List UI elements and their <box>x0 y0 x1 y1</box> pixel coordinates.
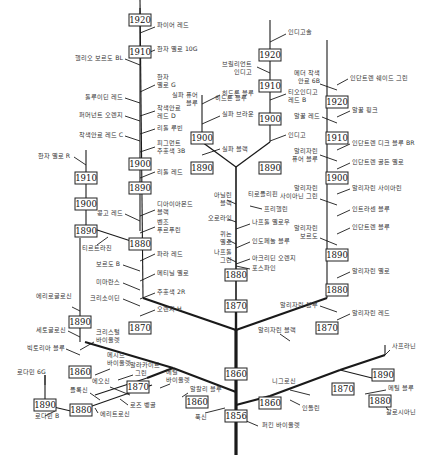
dye-label: 블루 <box>186 99 198 107</box>
dye-label: 그린 <box>135 369 147 376</box>
leader-line <box>140 27 155 33</box>
year-box: 1890 <box>372 369 394 381</box>
leader-line <box>257 67 270 73</box>
dye-label: 나프톨 <box>214 248 232 256</box>
dye-label: 알리자린 블루 <box>280 301 318 309</box>
year-label: 1860 <box>69 367 91 377</box>
dye-label: 레드 D <box>157 112 176 120</box>
leader-line <box>270 135 286 141</box>
dye-label: 인단트렌 골든 옐로 <box>352 158 404 165</box>
dye-label: 옐로 G <box>157 81 176 88</box>
year-label: 1880 <box>129 239 151 249</box>
year-label: 1870 <box>127 382 149 392</box>
leader-line <box>280 334 290 341</box>
year-label: 1870 <box>225 301 247 311</box>
dye-label: 블랙 <box>157 208 169 216</box>
dye-label: 한자 <box>157 73 169 81</box>
dye-label: 포스파인 <box>252 264 276 272</box>
leader-line <box>118 375 133 380</box>
dye-label: 인디고 <box>234 68 252 76</box>
leader-line <box>125 136 140 141</box>
year-box: 1880 <box>129 238 151 250</box>
dye-label: 갈로시아닌 <box>386 408 416 416</box>
dye-label: 아닐린 <box>214 191 232 199</box>
dye-label: 주홍색 2R <box>157 288 186 296</box>
leader-line <box>202 149 220 155</box>
leader-line <box>320 238 337 245</box>
dye-label: 티르트라진 <box>82 244 112 252</box>
leader-line <box>95 408 98 413</box>
dye-label: 크리스털 <box>96 328 120 336</box>
leader-line <box>250 206 262 209</box>
year-label: 1900 <box>259 114 281 124</box>
dye-label: 벤조 <box>157 218 169 225</box>
year-box: 1900 <box>191 132 213 144</box>
leader-line <box>320 306 337 312</box>
leader-line <box>74 157 86 165</box>
leader-line <box>160 384 170 388</box>
year-label: 1860 <box>186 397 208 407</box>
dye-label: 메더 착색 <box>294 69 320 77</box>
dye-label: 미마란스 <box>96 278 120 286</box>
year-box: 1910 <box>129 46 151 58</box>
year-label: 1870 <box>332 384 354 394</box>
year-label: 1910 <box>259 81 281 91</box>
year-label: 1890 <box>129 183 151 193</box>
year-label: 1900 <box>191 133 213 143</box>
year-box: 1860 <box>69 366 91 378</box>
dye-label: 알리자린 레드 <box>352 309 390 317</box>
leader-line <box>66 349 80 355</box>
leader-line <box>236 259 250 264</box>
dye-label: 주홍색 3B <box>157 147 185 155</box>
dye-label: 빅토리아 블루 <box>27 344 65 352</box>
leader-line <box>236 242 250 248</box>
year-box: 1890 <box>129 182 151 194</box>
leader-line <box>140 310 155 316</box>
leader-line <box>125 98 140 103</box>
year-box: 1880 <box>70 404 92 416</box>
leader-line <box>337 144 350 150</box>
year-label: 1890 <box>191 163 213 173</box>
dye-label: 푸르푸린 <box>157 226 181 234</box>
dye-label: 티로플리핀 <box>248 190 278 198</box>
year-box: 1880 <box>225 269 247 281</box>
leader-line <box>337 111 350 117</box>
leader-line <box>140 293 155 299</box>
year-label: 1910 <box>75 173 97 183</box>
dye-label: 메시드 <box>107 351 125 359</box>
dye-label: 티오인디고 <box>288 88 318 96</box>
year-label: 1890 <box>259 163 281 173</box>
year-box: 1900 <box>326 172 348 184</box>
leader-line <box>72 307 80 311</box>
dye-label: 인돌린 <box>302 404 320 411</box>
year-box: 1870 <box>127 381 149 393</box>
year-box: 1900 <box>259 113 281 125</box>
leader-line <box>320 84 337 90</box>
dye-family-tree-diagram: 파이어 레드한자 옐로 10G헬리오 보르도 BL한자옐로 G톨루이딘 레드착색… <box>0 0 435 455</box>
dye-label: 알리자린 블랙 <box>258 326 296 334</box>
leader-line <box>337 272 350 278</box>
year-box: 1920 <box>129 14 151 26</box>
dye-label: 레드 B <box>288 96 306 104</box>
year-label: 1890 <box>69 317 91 327</box>
year-label: 1870 <box>129 323 151 333</box>
dye-label: 로다민 6G <box>17 368 46 376</box>
dye-label: 사이아닌 그린 <box>280 192 318 200</box>
year-box: 1900 <box>129 158 151 170</box>
year-box: 1890 <box>34 399 56 411</box>
leader-line <box>123 265 140 271</box>
dye-label: 인단트렌 디크 블루 BR <box>352 139 415 147</box>
year-box: 1910 <box>326 132 348 144</box>
leader-line <box>68 331 80 337</box>
year-label: 1900 <box>326 173 348 183</box>
year-label: 1890 <box>75 226 97 236</box>
dye-label: 옐로 <box>220 238 232 245</box>
leader-line <box>320 155 337 161</box>
year-box: 1870 <box>225 300 247 312</box>
dye-label: 푹신 <box>195 413 207 421</box>
leader-line <box>140 147 155 152</box>
leader-line <box>337 228 350 234</box>
dye-label: 브릴리언트 <box>222 60 252 68</box>
dye-label: 알칼리 블루 <box>190 385 222 393</box>
dye-label: 알꿀 레드 <box>294 112 320 120</box>
